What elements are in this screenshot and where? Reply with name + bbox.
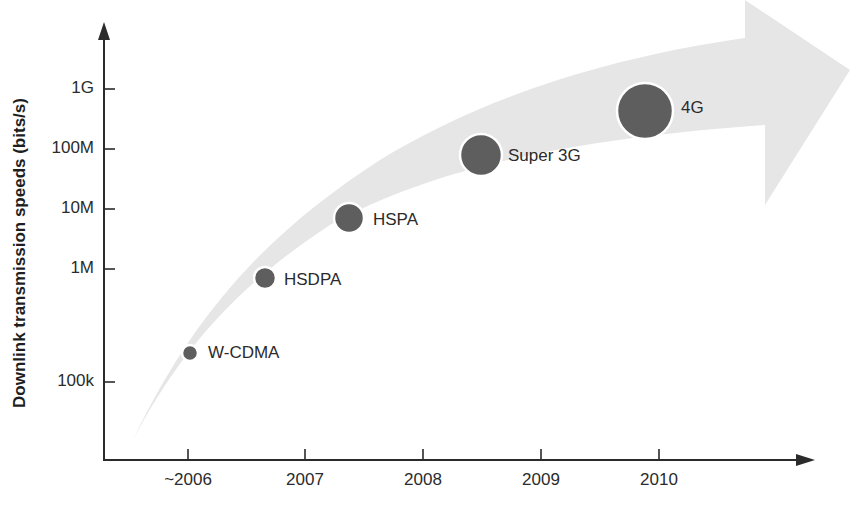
x-tick-label-2009: 2009 (501, 470, 581, 490)
y-ticks (104, 89, 115, 382)
point-wcdma (182, 345, 198, 361)
point-label-hspa: HSPA (373, 210, 418, 230)
y-tick-label-100m: 100M (24, 138, 94, 158)
x-tick-label-2007: 2007 (265, 470, 345, 490)
point-hsdpa (254, 267, 276, 289)
x-ticks (188, 449, 659, 460)
point-super3g (460, 134, 502, 176)
y-axis-arrowhead-icon (98, 22, 110, 40)
y-tick-label-1g: 1G (24, 78, 94, 98)
y-tick-label-10m: 10M (24, 198, 94, 218)
x-tick-label-2010: 2010 (619, 470, 699, 490)
point-label-4g: 4G (681, 98, 704, 118)
point-hspa (334, 203, 364, 233)
point-label-super3g: Super 3G (508, 146, 581, 166)
point-4g (617, 83, 673, 139)
x-tick-label-2008: 2008 (383, 470, 463, 490)
trend-arrow-band (133, 0, 850, 440)
x-axis-arrowhead-icon (796, 454, 815, 466)
x-tick-label-2006: ~2006 (148, 470, 228, 490)
chart-canvas (0, 0, 850, 506)
point-label-hsdpa: HSDPA (284, 270, 341, 290)
point-label-wcdma: W-CDMA (208, 343, 279, 363)
y-tick-label-100k: 100k (24, 371, 94, 391)
y-tick-label-1m: 1M (24, 258, 94, 278)
